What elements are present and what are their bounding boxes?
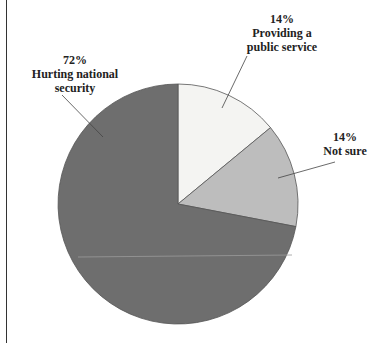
label-public-line2: public service (222, 40, 342, 54)
label-security-pct: 72% (20, 53, 130, 67)
label-security-line2: security (20, 81, 130, 95)
label-public-pct: 14% (222, 12, 342, 26)
label-providing-public-service: 14% Providing a public service (222, 12, 342, 54)
label-public-line1: Providing a (222, 26, 342, 40)
label-security-line1: Hurting national (20, 67, 130, 81)
label-not-sure: 14% Not sure (310, 130, 380, 158)
label-hurting-national-security: 72% Hurting national security (20, 53, 130, 95)
label-notsure-pct: 14% (310, 130, 380, 144)
label-notsure-line1: Not sure (310, 144, 380, 158)
